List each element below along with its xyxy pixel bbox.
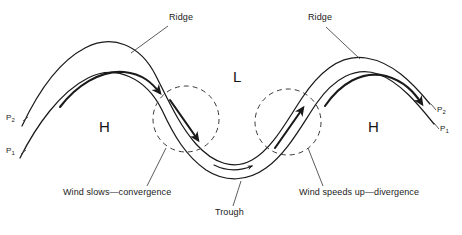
- ridge-right-leader-line: [326, 27, 360, 59]
- convergence-leader-line: [147, 148, 166, 186]
- trough-label: Trough: [215, 207, 244, 217]
- trough-leader-line: [233, 181, 241, 206]
- divergence-label: Wind speeds up—divergence: [299, 187, 419, 197]
- p2-right-tick: [431, 104, 436, 110]
- ridge-right-label: Ridge: [308, 12, 332, 22]
- trough-flow-arrow: [214, 165, 252, 170]
- divergence-arrow: [275, 108, 303, 148]
- convergence-label: Wind slows—convergence: [63, 187, 171, 197]
- isobar-p2-curve: [22, 42, 430, 165]
- isobar-label-p2-right: P2: [437, 105, 446, 114]
- ridge-left-flow-arrow: [60, 72, 160, 107]
- convergence-region-circle: [153, 86, 219, 152]
- ridge-left-leader-line: [131, 26, 168, 53]
- isobar-p2-left-subscript: 2: [11, 117, 14, 123]
- isobar-label-p2-left: P2: [6, 113, 15, 122]
- high-pressure-label-right: H: [368, 118, 379, 135]
- ridge-left-label: Ridge: [169, 12, 193, 22]
- low-pressure-label: L: [233, 68, 241, 85]
- isobar-label-p1-right: P1: [440, 124, 449, 133]
- diagram-svg: [0, 0, 462, 235]
- p1-right-tick: [434, 123, 439, 129]
- isobar-p2-right-subscript: 2: [442, 109, 445, 115]
- divergence-leader-line: [308, 148, 323, 186]
- isobar-p1-right-subscript: 1: [445, 128, 448, 134]
- isobar-p1-left-subscript: 1: [11, 150, 14, 156]
- high-pressure-label-left: H: [99, 118, 110, 135]
- isobar-label-p1-left: P1: [6, 146, 15, 155]
- diagram-canvas: Ridge Ridge L H H Wind slows—convergence…: [0, 0, 462, 235]
